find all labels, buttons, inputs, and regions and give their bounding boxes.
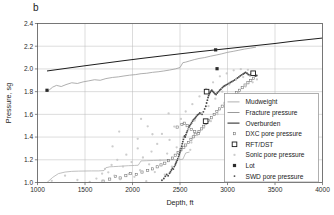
- x-tick-label: 4000: [315, 186, 330, 193]
- legend-label: Sonic pore pressure: [246, 151, 305, 159]
- chart-legend[interactable]: MudweightFracture pressureOverburdenDXC …: [225, 94, 319, 183]
- x-tick-label: 1000: [30, 186, 45, 193]
- chart-plot-area: 10001500200025003000350040001.01.21.41.6…: [0, 0, 334, 215]
- legend-label: RFT/DST: [246, 141, 274, 148]
- y-tick-label: 2.2: [24, 43, 33, 50]
- legend-label: Overburden: [246, 120, 281, 127]
- y-tick-label: 1.6: [24, 111, 33, 118]
- y-tick-label: 2.4: [24, 20, 33, 27]
- legend-label: DXC pore pressure: [246, 130, 303, 138]
- y-tick-label: 1.0: [24, 179, 33, 186]
- x-tick-label: 2500: [173, 186, 188, 193]
- y-axis-title: Pressure, sg: [4, 83, 13, 123]
- y-tick-label: 2.0: [24, 65, 33, 72]
- y-tick-label: 1.2: [24, 156, 33, 163]
- legend-label: Mudweight: [246, 98, 278, 106]
- figure-panel-b: b 10001500200025003000350040001.01.21.41…: [0, 0, 334, 215]
- series-mudweight: [47, 152, 190, 182]
- series-overburden: [47, 38, 323, 71]
- x-tick-label: 2000: [125, 186, 140, 193]
- x-axis-title: Depth, ft: [166, 198, 193, 207]
- x-tick-label: 3500: [268, 186, 283, 193]
- x-tick-label: 1500: [78, 186, 93, 193]
- legend-label: SWD pore pressure: [246, 173, 304, 181]
- legend-label: Lot: [246, 162, 255, 169]
- x-tick-label: 3000: [220, 186, 235, 193]
- y-tick-label: 1.8: [24, 88, 33, 95]
- legend-label: Fracture pressure: [246, 109, 298, 117]
- y-tick-label: 1.4: [24, 133, 33, 140]
- pressure-vs-depth-chart: 10001500200025003000350040001.01.21.41.6…: [0, 0, 334, 215]
- series-lot: [45, 48, 218, 92]
